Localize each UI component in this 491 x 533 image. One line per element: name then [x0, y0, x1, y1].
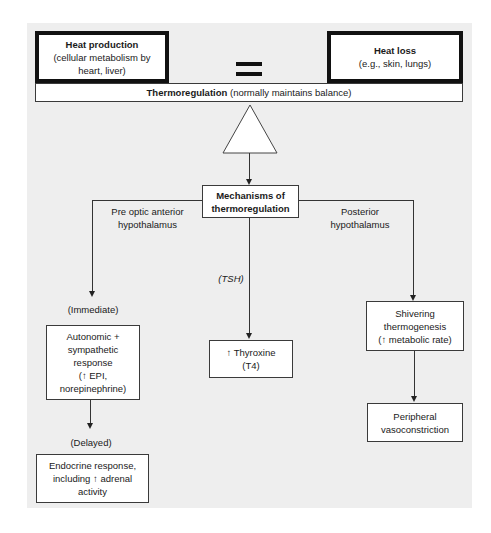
heat-loss-title: Heat loss [374, 44, 416, 57]
box-line: vasoconstriction [381, 423, 449, 436]
label-line: hypothalamus [100, 218, 195, 231]
arrow-down-icon [411, 396, 417, 402]
connector-line [414, 351, 415, 397]
arrow-down-icon [246, 333, 252, 339]
box-line: thermogenesis [384, 320, 446, 333]
box-line: including ↑ adrenal [53, 472, 132, 485]
connector-line [90, 400, 91, 424]
delayed-label: (Delayed) [45, 436, 137, 449]
autonomic-response-box: Autonomic + sympathetic response (↑ EPI,… [46, 325, 140, 400]
connector-line [249, 153, 250, 180]
thermoregulation-title: Thermoregulation [147, 86, 228, 99]
thermoregulation-detail: (normally maintains balance) [227, 86, 351, 99]
preoptic-anterior-hypothalamus-label: Pre optic anterior hypothalamus [100, 205, 195, 231]
posterior-hypothalamus-label: Posterior hypothalamus [320, 205, 400, 231]
connector-line-middle-vertical [249, 218, 250, 334]
heat-production-box: Heat production (cellular metabolism by … [35, 31, 169, 83]
arrow-down-icon [87, 423, 93, 429]
tsh-label: (TSH) [214, 272, 248, 285]
box-line: Autonomic + [66, 330, 119, 343]
connector-line-right-vertical [413, 200, 414, 296]
connector-line-right-horizontal [299, 200, 414, 201]
arrow-down-icon [89, 291, 95, 297]
box-line: sympathetic [68, 343, 119, 356]
heat-production-detail: (cellular metabolism by heart, liver) [46, 51, 158, 77]
box-line: (↑ EPI, [79, 369, 108, 382]
connector-line-left-vertical [92, 200, 93, 292]
label-line: Pre optic anterior [100, 205, 195, 218]
heat-loss-box: Heat loss (e.g., skin, lungs) [327, 31, 463, 83]
box-line: Endocrine response, [49, 459, 136, 472]
label-line: hypothalamus [320, 218, 400, 231]
endocrine-response-box: Endocrine response, including ↑ adrenal … [36, 454, 149, 503]
mechanisms-box: Mechanisms of thermoregulation [202, 185, 299, 218]
connector-line-left-horizontal [92, 200, 202, 201]
mechanisms-line1: Mechanisms of [216, 189, 285, 202]
thermoregulation-bar: Thermoregulation (normally maintains bal… [35, 83, 463, 102]
box-line: activity [78, 485, 107, 498]
box-line: response [73, 356, 112, 369]
box-line: Shivering [395, 307, 435, 320]
thyroxine-box: ↑ Thyroxine (T4) [209, 340, 293, 378]
heat-production-title: Heat production [66, 38, 139, 51]
shivering-thermogenesis-box: Shivering thermogenesis (↑ metabolic rat… [366, 301, 464, 351]
box-line: norepinephrine) [60, 382, 127, 395]
fulcrum-triangle-icon [222, 104, 278, 155]
box-line: (T4) [242, 359, 259, 372]
box-line: ↑ Thyroxine [227, 346, 276, 359]
mechanisms-line2: thermoregulation [211, 202, 289, 215]
label-line: Posterior [320, 205, 400, 218]
box-line: Peripheral [393, 410, 436, 423]
heat-loss-detail: (e.g., skin, lungs) [359, 57, 431, 70]
box-line: (↑ metabolic rate) [378, 333, 451, 346]
immediate-label: (Immediate) [47, 303, 139, 316]
peripheral-vasoconstriction-box: Peripheral vasoconstriction [367, 403, 463, 442]
